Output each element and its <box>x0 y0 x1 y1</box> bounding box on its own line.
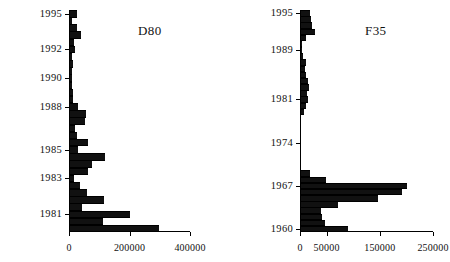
y-tick <box>65 150 69 151</box>
x-tick <box>433 232 434 236</box>
x-tick-label: 400000 <box>174 243 205 253</box>
bar <box>301 109 304 116</box>
x-tick-label: 0 <box>297 243 302 253</box>
x-tick <box>190 232 191 236</box>
y-tick-label: 1995 <box>271 8 293 18</box>
x-tick <box>130 232 131 236</box>
x-tick <box>69 232 70 236</box>
chart-panel-f35: F35 050000150000250000199519891981197419… <box>228 0 450 262</box>
x-tick-label: 200000 <box>114 243 145 253</box>
y-tick-label: 1981 <box>40 209 62 219</box>
x-tick <box>380 232 381 236</box>
y-tick <box>296 50 300 51</box>
y-tick <box>65 107 69 108</box>
y-tick <box>296 229 300 230</box>
bar <box>301 226 348 233</box>
y-tick-label: 1985 <box>40 145 62 155</box>
y-tick-label: 1990 <box>40 73 62 83</box>
y-tick-label: 1967 <box>271 181 293 191</box>
y-tick <box>296 99 300 100</box>
y-tick <box>296 143 300 144</box>
y-tick <box>296 186 300 187</box>
y-tick-label: 1960 <box>271 224 293 234</box>
y-tick-label: 1974 <box>271 138 293 148</box>
y-tick <box>65 14 69 15</box>
x-tick-label: 0 <box>66 243 71 253</box>
y-tick-label: 1989 <box>271 45 293 55</box>
y-tick <box>296 13 300 14</box>
plot-area-d80: 0200000400000199519921990198819851983198… <box>69 10 203 232</box>
plot-area-f35: 0500001500002500001995198919811974196719… <box>300 10 433 232</box>
x-tick <box>300 232 301 236</box>
y-tick <box>65 178 69 179</box>
figure-container: D80 020000040000019951992199019881985198… <box>0 0 450 262</box>
y-tick <box>65 49 69 50</box>
y-tick-label: 1981 <box>271 94 293 104</box>
bar <box>70 225 159 233</box>
y-tick-label: 1995 <box>40 9 62 19</box>
x-tick <box>327 232 328 236</box>
y-tick-label: 1983 <box>40 173 62 183</box>
y-tick-label: 1988 <box>40 102 62 112</box>
y-tick <box>65 214 69 215</box>
x-tick-label: 50000 <box>314 243 340 253</box>
x-tick-label: 150000 <box>364 243 395 253</box>
chart-panel-d80: D80 020000040000019951992199019881985198… <box>0 0 228 262</box>
y-tick-label: 1992 <box>40 44 62 54</box>
x-tick-label: 250000 <box>417 243 448 253</box>
y-tick <box>65 78 69 79</box>
